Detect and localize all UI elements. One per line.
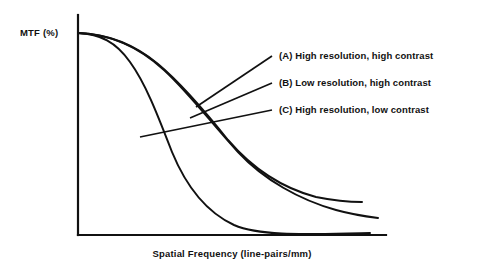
legend-label-b: (B) Low resolution, high contrast <box>279 77 432 88</box>
y-axis-title: MTF (%) <box>20 27 58 38</box>
mtf-chart-figure: MTF (%) Spatial Frequency (line-pairs/mm… <box>0 0 478 271</box>
legend-label-a: (A) High resolution, high contrast <box>279 50 434 61</box>
chart-canvas: MTF (%) Spatial Frequency (line-pairs/mm… <box>0 0 478 271</box>
legend-label-c: (C) High resolution, low contrast <box>279 104 430 115</box>
x-axis-title: Spatial Frequency (line-pairs/mm) <box>152 248 311 259</box>
